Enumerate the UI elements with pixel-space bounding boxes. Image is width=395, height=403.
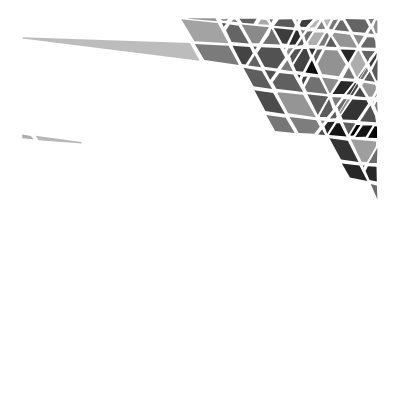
artwork-canvas [0,0,395,403]
triangle-mosaic-svg [0,0,395,403]
